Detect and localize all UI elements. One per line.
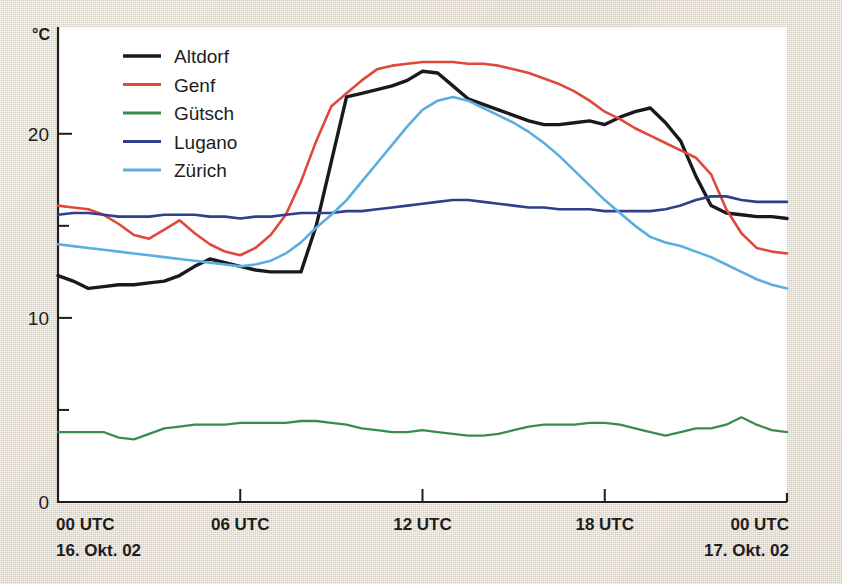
legend-label-genf: Genf (174, 75, 216, 96)
temperature-line-chart: °C 01020 00 UTC06 UTC12 UTC18 UTC00 UTC1… (0, 0, 842, 584)
y-tick-label: 0 (38, 492, 49, 513)
y-axis-unit-label: °C (32, 26, 50, 43)
x-tick-label: 18 UTC (575, 515, 634, 534)
legend-label-lugano: Lugano (174, 132, 237, 153)
x-axis-date-right: 17. Okt. 02 (704, 541, 789, 560)
x-tick-label: 00 UTC (56, 515, 115, 534)
legend-label-zürich: Zürich (174, 160, 227, 181)
x-tick-label: 00 UTC (730, 515, 789, 534)
y-tick-label: 10 (28, 308, 49, 329)
x-tick-label: 12 UTC (393, 515, 452, 534)
chart-stage: °C 01020 00 UTC06 UTC12 UTC18 UTC00 UTC1… (0, 0, 842, 584)
y-tick-label: 20 (28, 124, 49, 145)
x-tick-label: 06 UTC (211, 515, 270, 534)
x-axis-date-left: 16. Okt. 02 (56, 541, 141, 560)
legend-label-altdorf: Altdorf (174, 46, 230, 67)
legend-label-gütsch: Gütsch (174, 103, 234, 124)
